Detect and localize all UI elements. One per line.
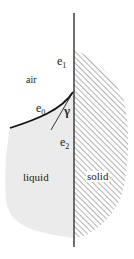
label-e0: e0 — [36, 102, 45, 117]
label-air: air — [26, 75, 37, 85]
label-e1: e1 — [57, 55, 66, 70]
diagram-canvas — [0, 0, 134, 259]
wetting-diagram: e1 air e0 γ e2 liquid solid — [0, 0, 134, 259]
solid-region — [74, 50, 128, 238]
label-liquid: liquid — [23, 172, 49, 183]
label-e2: e2 — [60, 136, 69, 151]
label-gamma: γ — [64, 104, 70, 117]
label-solid: solid — [86, 171, 109, 182]
